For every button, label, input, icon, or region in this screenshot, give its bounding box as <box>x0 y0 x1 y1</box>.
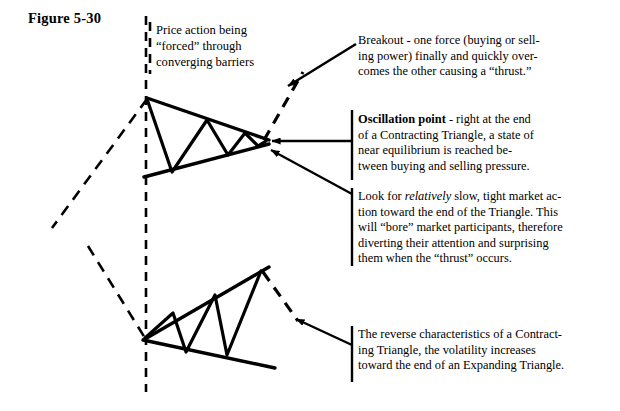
expanding-triangle-continuation-dashed-line <box>263 272 298 321</box>
note-reverse-line-2: ing Triangle, the volatility increases <box>358 343 608 359</box>
label-price-action-line1: Price action being <box>156 22 316 38</box>
note-breakout-line-1: Breakout - one force (buying or sell- <box>358 33 608 49</box>
note-oscillation: Oscillation point - right at the end of … <box>358 112 608 174</box>
note-look-for-line-4: diverting their attention and surprising <box>358 236 608 252</box>
expanding-triangle-upper-trendline <box>145 267 269 339</box>
label-price-action: Price action being “forced” through conv… <box>156 22 316 71</box>
note-look-for-line-1-b: slow, tight market ac- <box>451 189 561 203</box>
note-oscillation-line-1-rest: - right at the end <box>446 112 531 126</box>
label-price-action-line2: “forced” through <box>156 38 316 54</box>
note-look-for-line-3: will “bore” market participants, therefo… <box>358 220 608 236</box>
note-reverse-line-1: The reverse characteristics of a Contrac… <box>358 327 608 343</box>
note-look-for-line-1-a: Look for <box>358 189 405 203</box>
note-look-for: Look for relatively slow, tight market a… <box>358 189 608 267</box>
note-reverse: The reverse characteristics of a Contrac… <box>358 327 608 374</box>
look-for-note-arrow <box>271 150 352 194</box>
figure-container: Figure 5-30 Price action being “forced” … <box>0 0 620 411</box>
expanding-triangle-lower-trendline <box>143 340 275 368</box>
label-price-action-line3: converging barriers <box>156 54 316 70</box>
note-breakout-line-3: comes the other causing a “thrust.” <box>358 64 608 80</box>
note-oscillation-bold-lead: Oscillation point <box>358 112 446 126</box>
note-breakout-line-2: ing power) finally and quickly over- <box>358 49 608 65</box>
note-oscillation-line-3: near equilibrium is reached be- <box>358 143 608 159</box>
reverse-note-arrow <box>296 319 352 345</box>
note-look-for-line-1: Look for relatively slow, tight market a… <box>358 189 608 205</box>
converging-barrier-lower-dashed-line <box>88 246 145 338</box>
note-breakout: Breakout - one force (buying or sell- in… <box>358 33 608 80</box>
note-reverse-line-3: toward the end of an Expanding Triangle. <box>358 358 608 374</box>
note-look-for-line-5: them when the “thrust” occurs. <box>358 251 608 267</box>
note-look-for-line-2: tion toward the end of the Triangle. Thi… <box>358 205 608 221</box>
note-oscillation-line-4: tween buying and selling pressure. <box>358 159 608 175</box>
converging-barrier-upper-dashed-line <box>52 99 147 228</box>
figure-caption: Figure 5-30 <box>28 10 101 27</box>
note-look-for-italic-word: relatively <box>405 189 451 203</box>
note-oscillation-line-2: of a Contracting Triangle, a state of <box>358 128 608 144</box>
breakout-thrust-dashed-line <box>264 72 303 140</box>
note-oscillation-line-1: Oscillation point - right at the end <box>358 112 608 128</box>
